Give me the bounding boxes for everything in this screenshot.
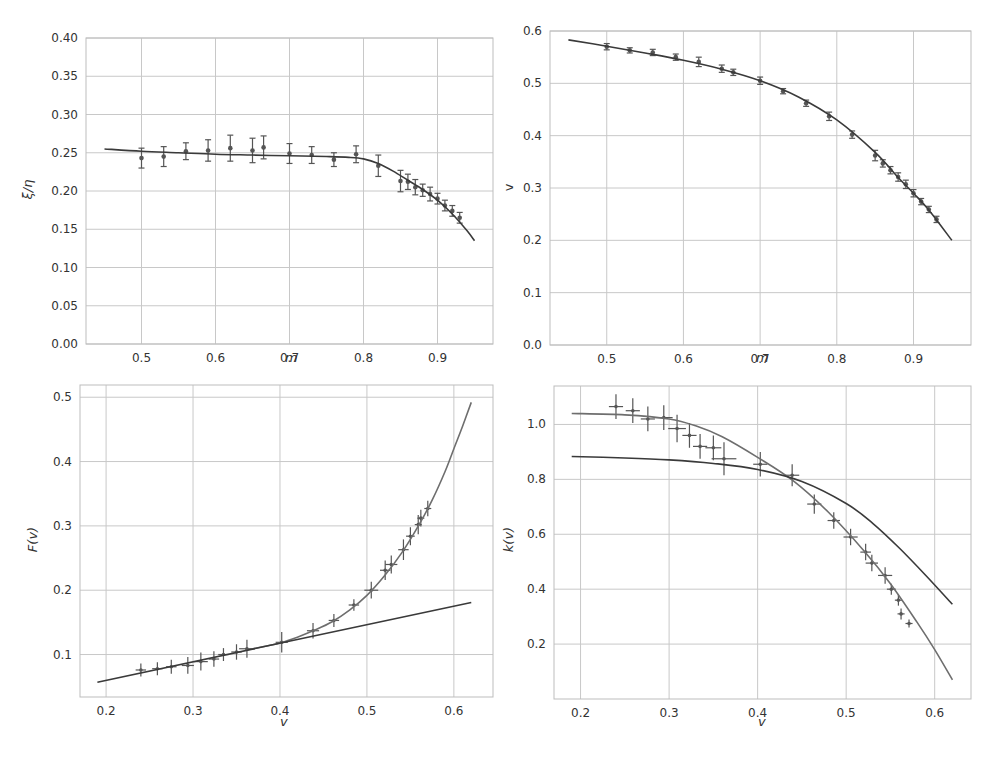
data-points	[609, 394, 913, 627]
y-tick-label: 0.10	[51, 261, 78, 275]
x-tick-label: 0.2	[97, 704, 116, 718]
panel1-ylabel: ξ/η	[20, 180, 35, 200]
fit-line-fit-steep	[572, 413, 953, 679]
x-tick-label: 0.5	[357, 704, 376, 718]
x-tick-label: 0.5	[597, 352, 616, 366]
x-tick-label: 0.5	[132, 351, 151, 365]
x-tick-label: 0.6	[674, 352, 693, 366]
axes-frame	[80, 385, 493, 697]
y-tick-label: 0.40	[51, 31, 78, 45]
x-tick-label: 0.9	[904, 352, 923, 366]
y-tick-label: 0.2	[527, 637, 546, 651]
axes-frame	[554, 386, 971, 699]
y-tick-label: 0.05	[51, 299, 78, 313]
y-tick-label: 0.4	[523, 129, 542, 143]
y-tick-label: 0.3	[53, 519, 72, 533]
gridlines	[80, 385, 493, 697]
panel4-xlabel: v	[758, 714, 766, 729]
panel2-ylabel: v	[501, 184, 516, 192]
y-tick-label: 0.1	[523, 286, 542, 300]
gridlines	[554, 386, 971, 699]
y-tick-label: 0.6	[527, 527, 546, 541]
x-tick-label: 0.2	[571, 706, 590, 720]
chart-panel-4: 0.20.30.40.50.60.20.40.60.81.0	[527, 386, 971, 720]
y-tick-label: 1.0	[527, 417, 546, 431]
data-points	[604, 44, 940, 223]
chart-panel-2: 0.50.60.70.80.90.00.10.20.30.40.50.6	[523, 24, 971, 366]
y-tick-label: 0.25	[51, 146, 78, 160]
y-tick-label: 0.3	[523, 181, 542, 195]
x-tick-label: 0.8	[354, 351, 373, 365]
y-tick-label: 0.4	[53, 455, 72, 469]
y-tick-label: 0.6	[523, 24, 542, 38]
y-tick-label: 0.2	[523, 233, 542, 247]
gridlines	[86, 38, 493, 344]
y-tick-label: 0.35	[51, 69, 78, 83]
chart-panel-1: 0.50.60.70.80.90.000.050.100.150.200.250…	[51, 31, 493, 365]
y-tick-label: 0.4	[527, 582, 546, 596]
data-points	[139, 135, 463, 223]
y-tick-label: 0.00	[51, 337, 78, 351]
x-tick-label: 0.6	[206, 351, 225, 365]
y-tick-label: 0.2	[53, 583, 72, 597]
panel3-xlabel: v	[280, 714, 288, 729]
y-tick-label: 0.30	[51, 108, 78, 122]
x-tick-label: 0.3	[660, 706, 679, 720]
y-tick-label: 0.0	[523, 338, 542, 352]
x-tick-label: 0.3	[183, 704, 202, 718]
panel4-ylabel: k(v)	[501, 527, 516, 552]
fit-line-fit-linear	[97, 602, 471, 682]
x-tick-label: 0.5	[837, 706, 856, 720]
y-tick-label: 0.8	[527, 472, 546, 486]
fit-line-fit-shallow	[572, 457, 953, 605]
figure: 0.50.60.70.80.90.000.050.100.150.200.250…	[0, 0, 992, 760]
panel1-xlabel: m	[285, 350, 298, 365]
x-tick-label: 0.6	[444, 704, 463, 718]
y-tick-label: 0.5	[53, 390, 72, 404]
x-tick-label: 0.8	[827, 352, 846, 366]
chart-panel-3: 0.20.30.40.50.60.10.20.30.40.5	[53, 385, 493, 718]
y-tick-label: 0.5	[523, 76, 542, 90]
data-points	[136, 501, 432, 677]
x-tick-label: 0.6	[925, 706, 944, 720]
panel2-xlabel: m	[756, 350, 769, 365]
x-tick-label: 0.9	[428, 351, 447, 365]
y-tick-label: 0.15	[51, 222, 78, 236]
panel3-ylabel: F(v)	[25, 527, 40, 552]
y-tick-label: 0.1	[53, 648, 72, 662]
y-tick-label: 0.20	[51, 184, 78, 198]
